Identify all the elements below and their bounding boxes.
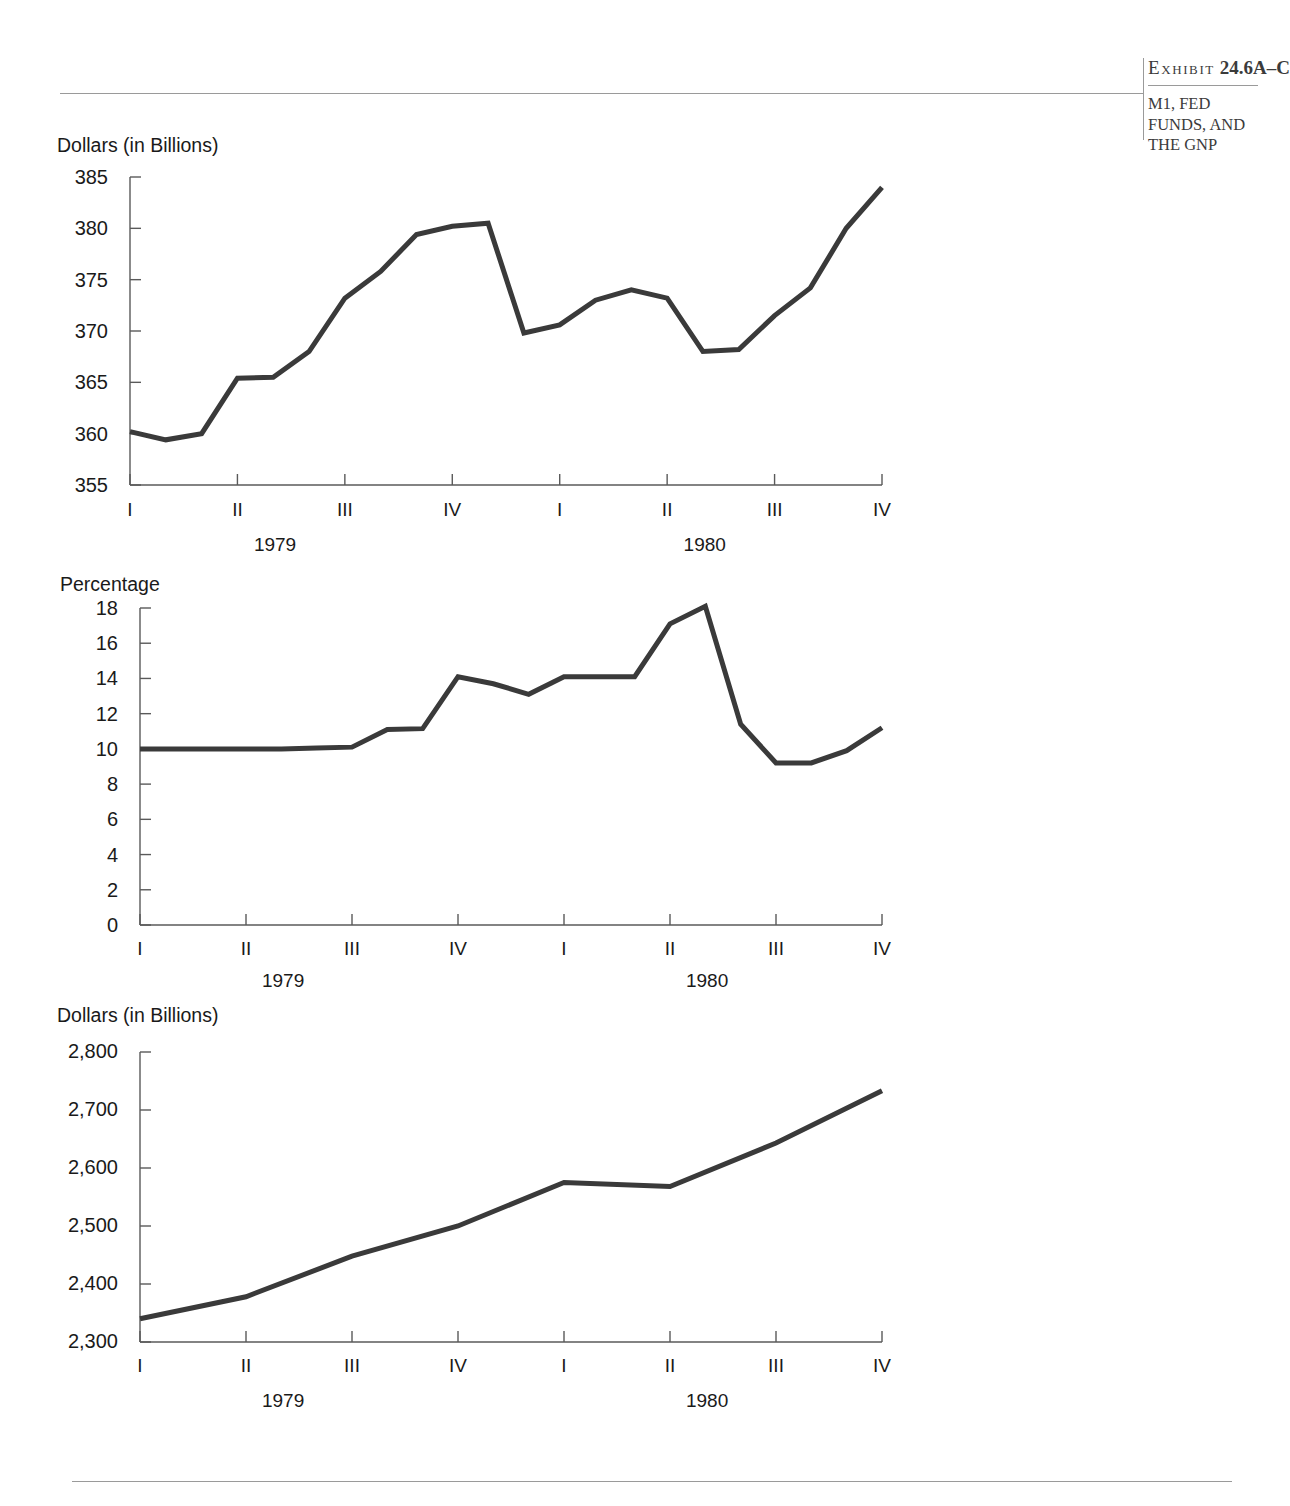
x-tick-label: III [312,1355,392,1377]
chart-fed-funds-plot [0,560,960,990]
y-tick-label: 2 [0,879,118,902]
x-tick-label: I [520,499,600,521]
chart-gnp: Dollars (in Billions) 2,3002,4002,5002,6… [0,990,960,1440]
exhibit-vertical-rule [1143,58,1144,140]
x-tick-label: III [305,499,385,521]
x-tick-label: III [735,499,815,521]
y-tick-label: 4 [0,844,118,867]
y-tick-label: 380 [0,217,108,240]
exhibit-underline [1148,85,1258,86]
y-tick-label: 2,700 [0,1098,118,1121]
x-tick-label: II [630,1355,710,1377]
y-tick-label: 2,500 [0,1214,118,1237]
x-tick-label: I [524,938,604,960]
x-axis-year-label: 1980 [655,534,755,556]
chart-m1: Dollars (in Billions) 355360365370375380… [0,0,960,560]
y-tick-label: 360 [0,423,108,446]
x-tick-label: I [100,938,180,960]
x-axis-year-label: 1979 [233,1390,333,1412]
chart-fed-funds: Percentage 024681012141618IIIIIIIVIIIIII… [0,560,960,990]
x-axis-year-label: 1979 [233,970,333,992]
y-tick-label: 2,800 [0,1040,118,1063]
x-tick-label: IV [842,499,922,521]
x-axis-year-label: 1980 [657,970,757,992]
y-tick-label: 355 [0,474,108,497]
x-axis-year-label: 1980 [657,1390,757,1412]
x-tick-label: I [524,1355,604,1377]
x-tick-label: IV [412,499,492,521]
y-tick-label: 2,400 [0,1272,118,1295]
y-tick-label: 375 [0,269,108,292]
exhibit-subtitle: M1, FED FUNDS, AND THE GNP [1148,94,1268,156]
chart-m1-plot [0,0,960,560]
y-tick-label: 370 [0,320,108,343]
x-tick-label: II [206,1355,286,1377]
y-tick-label: 10 [0,738,118,761]
x-tick-label: IV [418,938,498,960]
exhibit-header: Exhibit 24.6A–C [1148,58,1258,79]
x-tick-label: III [736,1355,816,1377]
y-tick-label: 2,600 [0,1156,118,1179]
x-tick-label: III [736,938,816,960]
y-tick-label: 18 [0,597,118,620]
x-tick-label: I [100,1355,180,1377]
x-tick-label: II [206,938,286,960]
x-tick-label: II [197,499,277,521]
y-tick-label: 16 [0,632,118,655]
y-tick-label: 365 [0,371,108,394]
x-axis-year-label: 1979 [225,534,325,556]
exhibit-number: 24.6A–C [1220,57,1290,78]
x-tick-label: II [630,938,710,960]
y-tick-label: 12 [0,703,118,726]
exhibit-title: Exhibit 24.6A–C [1148,58,1258,79]
y-tick-label: 0 [0,914,118,937]
y-tick-label: 6 [0,808,118,831]
x-tick-label: IV [842,938,922,960]
x-tick-label: III [312,938,392,960]
x-tick-label: IV [418,1355,498,1377]
y-tick-label: 8 [0,773,118,796]
x-tick-label: IV [842,1355,922,1377]
x-tick-label: I [90,499,170,521]
exhibit-label: Exhibit [1148,57,1215,78]
page-bottom-rule [72,1481,1232,1482]
y-tick-label: 385 [0,166,108,189]
y-tick-label: 2,300 [0,1330,118,1353]
x-tick-label: II [627,499,707,521]
y-tick-label: 14 [0,667,118,690]
